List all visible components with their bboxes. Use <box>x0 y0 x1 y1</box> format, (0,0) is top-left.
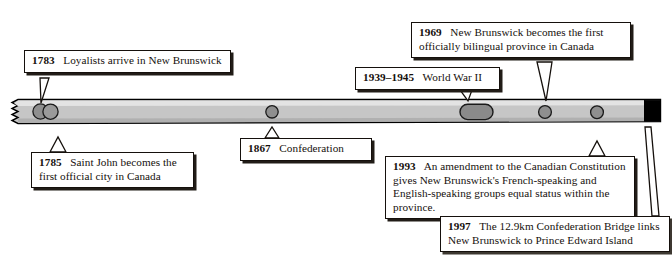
timeline-diagram: 1783 Loyalists arrive in New Brunswick 1… <box>0 0 672 269</box>
tail-1867 <box>265 127 279 138</box>
callout-1867-text: Confederation <box>279 142 344 154</box>
timeline-marker-1997 <box>645 100 661 121</box>
tail-1785 <box>50 137 66 152</box>
callout-1867: 1867 Confederation <box>240 138 372 161</box>
callout-1997-year: 1997 <box>448 220 476 232</box>
timeline-bar-highlight <box>14 101 660 106</box>
callout-1993-text: An amendment to the Canadian Constitutio… <box>393 160 626 213</box>
callout-1997: 1997 The 12.9km Confederation Bridge lin… <box>440 216 670 252</box>
timeline-marker-1993 <box>591 106 604 119</box>
callout-world-war-ii: 1939–1945 World War II <box>355 67 500 90</box>
callout-1993: 1993 An amendment to the Canadian Consti… <box>385 156 635 219</box>
callout-1993-year: 1993 <box>393 160 421 172</box>
callout-1867-year: 1867 <box>248 142 276 154</box>
tail-1993 <box>589 141 605 156</box>
callout-1969: 1969 New Brunswick becomes the first off… <box>411 22 631 58</box>
timeline-bar <box>10 98 662 126</box>
tail-1969 <box>537 62 552 101</box>
timeline-marker-1867 <box>266 106 278 118</box>
timeline-marker-1969 <box>539 106 552 119</box>
timeline-marker-wwii <box>460 104 493 119</box>
callout-1785-year: 1785 <box>39 156 67 168</box>
callout-1969-text: New Brunswick becomes the first official… <box>419 26 604 52</box>
callout-1969-year: 1969 <box>419 26 447 38</box>
callout-1997-text: The 12.9km Confederation Bridge links Ne… <box>448 220 660 246</box>
callout-1785: 1785 Saint John becomes the first offici… <box>31 152 194 188</box>
callout-wwii-year: 1939–1945 <box>363 71 420 83</box>
callout-1783: 1783 Loyalists arrive in New Brunswick <box>24 50 231 73</box>
timeline-marker-1783-1785 <box>33 104 58 119</box>
callout-1783-year: 1783 <box>32 54 60 66</box>
callout-1783-text: Loyalists arrive in New Brunswick <box>63 54 221 66</box>
tail-1997 <box>645 127 659 216</box>
callout-wwii-text: World War II <box>423 71 482 83</box>
